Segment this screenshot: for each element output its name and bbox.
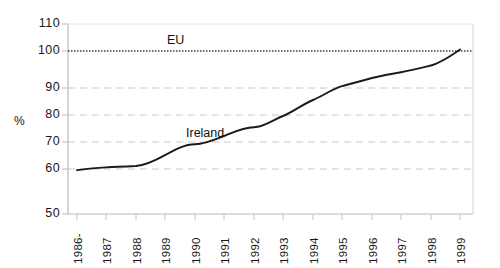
y-tick-label-80: 80 — [20, 108, 60, 121]
x-tick-label-1997: 1997 — [395, 220, 409, 264]
y-tick-label-60: 60 — [20, 162, 60, 175]
eu-series-label: EU — [167, 33, 184, 47]
gridlines — [68, 88, 473, 169]
y-tick-label-90: 90 — [20, 81, 60, 94]
ireland-series-label: Ireland — [186, 126, 224, 140]
x-tick-label-1989: 1989 — [159, 220, 173, 264]
y-tick-label-100: 100 — [20, 44, 60, 57]
y-tick-label-110: 110 — [20, 17, 60, 30]
ireland-series-line — [77, 50, 460, 171]
y-axis-unit-label: % — [14, 114, 25, 128]
y-tick-marks — [62, 24, 68, 214]
x-tick-label-1994: 1994 — [307, 220, 321, 264]
x-tick-label-1998: 1998 — [425, 220, 439, 264]
x-tick-label-1995: 1995 — [336, 220, 350, 264]
x-tick-label-1996: 1996 — [366, 220, 380, 264]
y-tick-label-50: 50 — [20, 207, 60, 220]
x-tick-label-1988: 1988 — [130, 220, 144, 264]
x-tick-label-1992: 1992 — [248, 220, 262, 264]
x-tick-label-1986: 1986- — [71, 220, 85, 264]
chart-container: 110 100 90 80 70 60 50 % 1986- 1987 1988… — [0, 0, 500, 268]
x-tick-label-1990: 1990 — [189, 220, 203, 264]
x-tick-label-1991: 1991 — [218, 220, 232, 264]
x-tick-label-1999: 1999 — [454, 220, 468, 264]
y-tick-label-70: 70 — [20, 135, 60, 148]
x-tick-label-1993: 1993 — [277, 220, 291, 264]
x-tick-label-1987: 1987 — [100, 220, 114, 264]
y-axis-labels: 110 100 90 80 70 60 50 — [16, 0, 60, 268]
